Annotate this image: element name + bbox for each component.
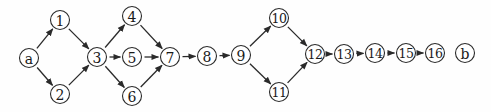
- edge-3-to-6: [105, 66, 124, 87]
- edge-4-to-7: [140, 25, 162, 48]
- node-7: 7: [161, 48, 180, 67]
- node-6: 6: [123, 87, 142, 106]
- edge-2-to-3: [69, 65, 89, 85]
- node-10: 10: [270, 9, 289, 28]
- node-1: 1: [51, 11, 70, 30]
- node-label: 1: [56, 13, 65, 29]
- node-label: 5: [128, 50, 137, 66]
- node-label: 6: [128, 89, 137, 105]
- node-4: 4: [123, 7, 142, 26]
- graph-svg: a12345678910111213141516b: [0, 0, 491, 112]
- node-b: b: [456, 44, 475, 63]
- edge-a-to-1: [37, 29, 53, 48]
- edge-11-to-12: [288, 62, 307, 83]
- node-label: 15: [399, 46, 414, 61]
- node-a: a: [20, 49, 39, 68]
- node-label: 8: [203, 49, 212, 65]
- edge-a-to-2: [37, 67, 52, 85]
- node-label: 2: [56, 87, 65, 103]
- edge-9-to-11: [250, 64, 271, 84]
- node-5: 5: [123, 48, 142, 67]
- node-3: 3: [88, 48, 107, 67]
- node-11: 11: [270, 83, 289, 102]
- edge-10-to-12: [288, 27, 307, 46]
- node-14: 14: [366, 44, 385, 63]
- node-label: 3: [93, 50, 102, 66]
- node-label: 11: [272, 85, 287, 100]
- node-9: 9: [232, 46, 251, 65]
- edge-6-to-7: [141, 65, 162, 87]
- node-2: 2: [51, 85, 70, 104]
- node-label: 9: [237, 48, 246, 64]
- edge-9-to-10: [250, 26, 271, 46]
- node-label: 10: [272, 11, 287, 26]
- node-8: 8: [198, 47, 217, 66]
- node-label: a: [25, 51, 33, 67]
- node-label: 12: [308, 47, 323, 62]
- node-15: 15: [397, 44, 416, 63]
- graph-diagram: a12345678910111213141516b: [0, 0, 491, 112]
- edge-1-to-3: [69, 29, 89, 49]
- nodes-group: a12345678910111213141516b: [20, 7, 475, 106]
- node-label: 4: [128, 9, 137, 25]
- node-12: 12: [306, 45, 325, 64]
- node-label: b: [461, 46, 470, 62]
- node-label: 16: [428, 46, 443, 61]
- node-16: 16: [426, 44, 445, 63]
- node-label: 14: [368, 46, 383, 61]
- node-13: 13: [335, 45, 354, 64]
- edge-3-to-4: [105, 25, 124, 48]
- node-label: 7: [166, 50, 175, 66]
- node-label: 13: [337, 47, 352, 62]
